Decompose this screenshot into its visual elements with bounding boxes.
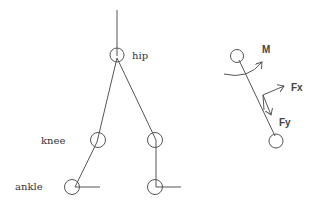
fy-arrow <box>263 95 271 115</box>
free-body-diagram: M Fx Fy <box>224 44 303 148</box>
leg-model: hip knee ankle <box>15 10 181 195</box>
proximal-joint <box>231 50 244 63</box>
left-shank <box>75 142 97 187</box>
fy-label: Fy <box>279 117 291 128</box>
diagram-canvas: hip knee ankle M Fx Fy <box>0 0 313 205</box>
fx-label: Fx <box>291 82 303 93</box>
left-knee-joint <box>91 133 106 148</box>
knee-label: knee <box>41 135 65 146</box>
right-knee-joint <box>148 133 163 148</box>
distal-joint <box>269 134 283 148</box>
moment-label: M <box>262 44 270 55</box>
left-thigh <box>97 58 117 142</box>
right-thigh <box>117 58 156 140</box>
fx-arrow <box>263 86 284 110</box>
ankle-label: ankle <box>15 181 43 192</box>
hip-label: hip <box>132 50 148 61</box>
segment-line <box>239 60 275 136</box>
